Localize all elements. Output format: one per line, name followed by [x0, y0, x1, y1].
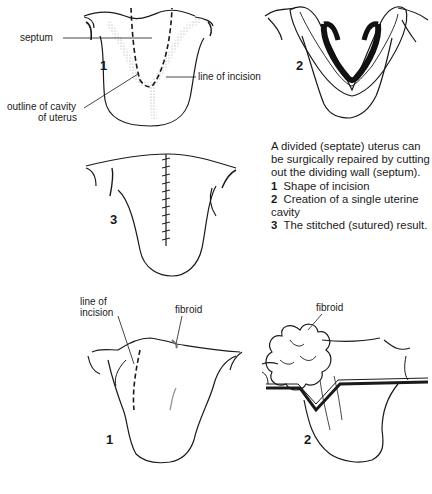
panel-number-top-3: 3	[110, 212, 117, 227]
caption-item-3-number: 3	[271, 219, 277, 231]
panel-number-top-2: 2	[296, 58, 303, 73]
label-septum: septum	[20, 32, 53, 43]
sutured-uterus-diagram-3	[86, 154, 236, 276]
label-fibroid-bottom-2: fibroid	[316, 302, 343, 313]
caption-item-1-number: 1	[271, 180, 277, 192]
panel-number-top-1: 1	[100, 58, 107, 73]
fibroid-removal-diagram-2	[262, 314, 428, 462]
panel-number-bottom-1: 1	[106, 432, 113, 447]
label-outline-of-cavity-line1: outline of cavity	[7, 101, 76, 112]
caption-item-3: 3 The stitched (sutured) result.	[271, 219, 431, 232]
figure-caption: A divided (septate) uterus can be surgic…	[271, 140, 431, 232]
caption-item-2-text: Creation of a single uterine cavity	[271, 193, 419, 218]
panel-number-bottom-2: 2	[304, 432, 311, 447]
label-line-of-incision-bottom-line2: incision	[80, 307, 113, 318]
caption-item-2-number: 2	[271, 193, 277, 205]
label-line-of-incision-bottom-line1: line of	[80, 296, 107, 307]
label-fibroid-bottom-1: fibroid	[175, 304, 202, 315]
single-cavity-diagram-2	[265, 7, 428, 118]
caption-item-1: 1 Shape of incision	[271, 180, 431, 193]
septate-uterus-diagram-1	[63, 8, 213, 126]
caption-intro: A divided (septate) uterus can be surgic…	[271, 140, 431, 180]
caption-item-3-text: The stitched (sutured) result.	[284, 219, 428, 231]
label-outline-of-cavity-line2: of uterus	[38, 112, 77, 123]
label-line-of-incision-top: line of incision	[198, 71, 261, 82]
caption-item-1-text: Shape of incision	[284, 180, 370, 192]
caption-item-2: 2 Creation of a single uterine cavity	[271, 193, 431, 219]
